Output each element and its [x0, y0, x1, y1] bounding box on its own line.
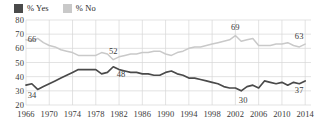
- data-point-label: 63: [295, 32, 304, 41]
- plot-area: [0, 14, 319, 110]
- x-axis-tick-label: 2010: [273, 110, 290, 119]
- data-point-label: 37: [295, 86, 304, 95]
- x-axis-tick-label: 1982: [110, 110, 127, 119]
- legend-entry-no: % No: [63, 4, 96, 13]
- x-axis-tick-label: 2002: [227, 110, 244, 119]
- data-point-label: 34: [28, 91, 37, 100]
- gridlines: [26, 20, 311, 105]
- x-axis-tick-labels: 1966197019741978198219861990199419982002…: [0, 108, 319, 124]
- square-swatch-icon: [63, 4, 72, 13]
- x-axis-tick-label: 1990: [157, 110, 174, 119]
- x-axis-tick-label: 1978: [87, 110, 104, 119]
- x-axis-tick-label: 1974: [64, 110, 81, 119]
- x-axis-tick-label: 1998: [203, 110, 220, 119]
- x-axis-tick-label: 1986: [134, 110, 151, 119]
- data-point-label: 48: [117, 70, 126, 79]
- x-axis-tick-label: 1994: [180, 110, 197, 119]
- data-point-label: 66: [28, 35, 37, 44]
- x-axis-tick-label: 1966: [17, 110, 34, 119]
- legend-label-yes: % Yes: [27, 4, 49, 13]
- x-axis-tick-label: 2014: [296, 110, 313, 119]
- plot-svg: [0, 14, 319, 110]
- data-point-label: 69: [231, 22, 240, 31]
- legend-label-no: % No: [76, 4, 96, 13]
- data-point-label: 52: [109, 46, 118, 55]
- legend-entry-yes: % Yes: [14, 4, 49, 13]
- x-axis-tick-label: 2006: [250, 110, 267, 119]
- line-chart: % Yes % No 80706050403020 66345248693063…: [0, 0, 319, 125]
- square-swatch-icon: [14, 4, 23, 13]
- data-point-label: 30: [239, 96, 248, 105]
- x-axis-tick-label: 1970: [41, 110, 58, 119]
